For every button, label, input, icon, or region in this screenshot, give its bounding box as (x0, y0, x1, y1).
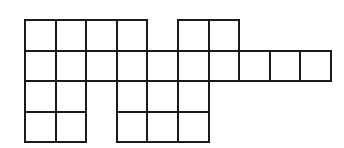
grid-cell (55, 80, 87, 113)
grid-cell (299, 50, 332, 82)
grid-cell (55, 50, 87, 82)
grid-cell (116, 19, 148, 52)
grid-cell (24, 19, 57, 52)
grid-cell (24, 80, 57, 113)
grid-cell (238, 50, 271, 82)
grid-cell (146, 50, 179, 82)
grid-cell (146, 80, 179, 113)
grid-cell (55, 111, 87, 143)
grid-cell (55, 19, 87, 52)
grid-cell (208, 19, 240, 52)
grid-cell (208, 50, 240, 82)
grid-figure (0, 0, 344, 148)
grid-cell (177, 111, 210, 143)
grid-cell (116, 80, 148, 113)
grid-cell (177, 19, 210, 52)
grid-cell (269, 50, 301, 82)
grid-cell (85, 19, 118, 52)
grid-cell (116, 50, 148, 82)
grid-cell (116, 111, 148, 143)
grid-cell (24, 50, 57, 82)
grid-cell (85, 50, 118, 82)
grid-cell (177, 80, 210, 113)
grid-cell (24, 111, 57, 143)
grid-cell (146, 111, 179, 143)
grid-cell (177, 50, 210, 82)
